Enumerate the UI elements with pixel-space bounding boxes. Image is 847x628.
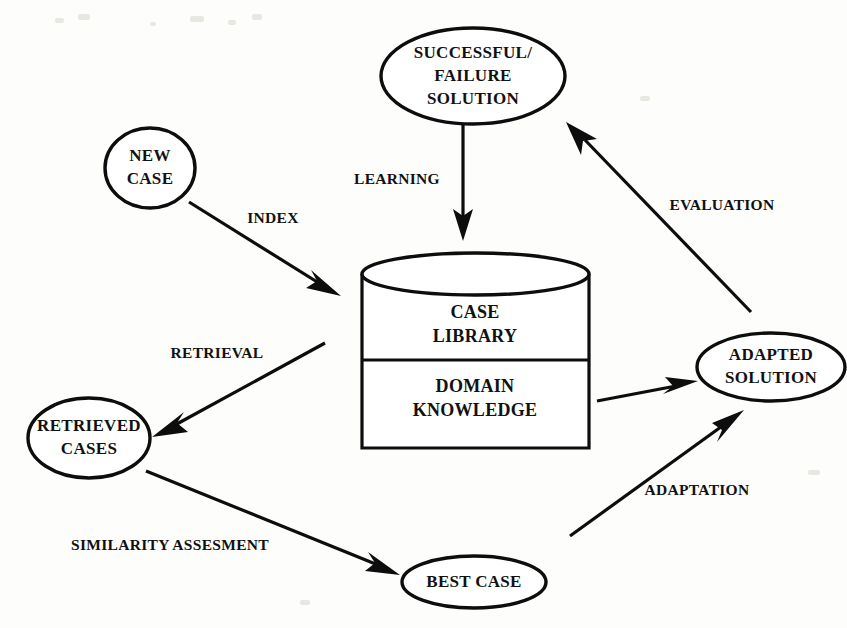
case-library-cylinder-top	[362, 253, 589, 295]
edge-similarity-assesment: SIMILARITY ASSESMENT	[71, 471, 400, 575]
case-library-label-line-1: CASE	[450, 302, 499, 322]
edge-label-adaptation: ADAPTATION	[645, 481, 750, 498]
node-case-library-store: CASE LIBRARY DOMAIN KNOWLEDGE	[362, 253, 589, 448]
edge-domain-feed-arrowhead	[663, 377, 698, 394]
edge-retrieval-arrowhead	[152, 412, 188, 437]
domain-knowledge-label-line-2: KNOWLEDGE	[413, 400, 538, 420]
node-new-case: NEW CASE	[105, 128, 195, 208]
successful-failure-solution-label-line-2: FAILURE	[434, 66, 511, 85]
edge-adaptation-arrowhead	[712, 410, 744, 442]
edge-retrieval: RETRIEVAL	[152, 343, 325, 437]
edge-label-similarity-assesment: SIMILARITY ASSESMENT	[71, 536, 269, 553]
edge-evaluation: EVALUATION	[566, 122, 774, 312]
retrieved-cases-label-line-2: CASES	[61, 439, 117, 458]
edge-learning: LEARNING	[354, 122, 473, 241]
edge-index-arrowhead	[306, 270, 341, 296]
new-case-label-line-2: CASE	[127, 169, 174, 188]
case-library-label-line-2: LIBRARY	[433, 326, 517, 346]
edge-label-retrieval: RETRIEVAL	[171, 344, 264, 361]
edge-label-learning: LEARNING	[354, 170, 440, 187]
edge-adaptation: ADAPTATION	[570, 410, 749, 536]
edge-index: INDEX	[189, 202, 341, 296]
adapted-solution-label-line-2: SOLUTION	[725, 368, 818, 387]
diagram-canvas: LEARNING INDEX RETRIEVAL SIMILARITY ASSE…	[0, 0, 847, 628]
cbr-cycle-diagram: LEARNING INDEX RETRIEVAL SIMILARITY ASSE…	[0, 0, 847, 628]
edge-label-evaluation: EVALUATION	[670, 196, 775, 213]
node-retrieved-cases: RETRIEVED CASES	[28, 398, 150, 478]
adapted-solution-label-line-1: ADAPTED	[729, 345, 813, 364]
node-adapted-solution: ADAPTED SOLUTION	[697, 333, 845, 401]
domain-knowledge-label-line-1: DOMAIN	[436, 376, 515, 396]
successful-failure-solution-label-line-1: SUCCESSFUL/	[414, 43, 533, 62]
best-case-label: BEST CASE	[426, 572, 521, 591]
new-case-label-line-1: NEW	[129, 146, 171, 165]
edge-domain-knowledge-feed	[597, 377, 698, 401]
edge-evaluation-line	[585, 140, 751, 312]
edge-label-index: INDEX	[247, 209, 299, 226]
successful-failure-solution-label-line-3: SOLUTION	[427, 89, 520, 108]
node-best-case: BEST CASE	[402, 556, 546, 608]
edge-evaluation-arrowhead	[566, 122, 597, 155]
retrieved-cases-label-line-1: RETRIEVED	[37, 416, 141, 435]
node-successful-failure-solution: SUCCESSFUL/ FAILURE SOLUTION	[381, 28, 565, 124]
